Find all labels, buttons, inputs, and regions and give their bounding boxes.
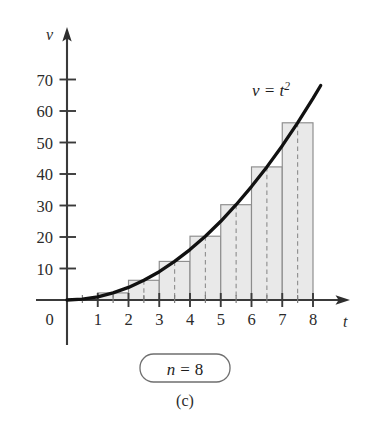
x-tick-label: 6 (247, 310, 255, 329)
figure-caption: (c) (176, 392, 194, 410)
y-tick-label: 40 (37, 165, 54, 184)
figure-container: v t 10 20 30 40 50 60 70 0 1 2 3 4 5 6 7… (0, 0, 369, 428)
x-axis-label: t (343, 313, 348, 330)
x-tick-label: 8 (309, 310, 317, 329)
curve-equation-label: v = t2 (252, 80, 290, 101)
n-value: 8 (195, 360, 204, 379)
x-tick-label: 2 (124, 310, 132, 329)
x-tick-labels-group: 0 1 2 3 4 5 6 7 8 (45, 310, 317, 329)
x-tick-label: 1 (94, 310, 102, 329)
riemann-sum-chart: v t 10 20 30 40 50 60 70 0 1 2 3 4 5 6 7… (0, 0, 369, 428)
y-tick-label: 20 (37, 228, 54, 247)
y-axis-label: v (46, 26, 54, 43)
y-tick-label: 50 (37, 134, 54, 153)
y-tick-label: 70 (37, 71, 54, 90)
curve-equation-base: v = t (252, 81, 286, 100)
y-tick-labels-group: 10 20 30 40 50 60 70 (37, 71, 54, 279)
y-tick-label: 60 (37, 102, 54, 121)
n-value-box-label: n=8 (167, 360, 204, 379)
x-tick-label: 4 (186, 310, 194, 329)
y-tick-label: 30 (37, 197, 54, 216)
n-symbol: n (167, 360, 176, 379)
bars-group (67, 123, 313, 300)
x-origin-label: 0 (45, 310, 53, 329)
x-tick-label: 5 (217, 310, 225, 329)
x-tick-label: 3 (155, 310, 163, 329)
y-tick-label: 10 (37, 260, 54, 279)
n-value-box: n=8 (140, 354, 230, 382)
x-tick-label: 7 (278, 310, 286, 329)
curve-equation-exponent: 2 (284, 80, 290, 92)
n-equals-sign: = (180, 360, 190, 379)
